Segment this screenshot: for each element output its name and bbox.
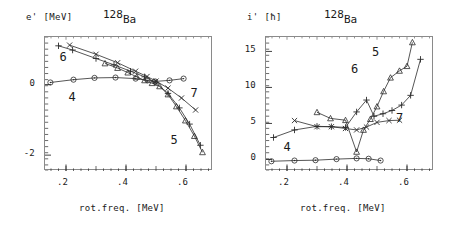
- curve-label-6: 6: [60, 50, 67, 64]
- y-tick-label: 15: [245, 44, 256, 54]
- x-axis-label-left: rot.freq. [MeV]: [79, 203, 165, 213]
- plot-title-left: 128Ba: [103, 8, 136, 26]
- x-tick-label: .2: [57, 177, 68, 187]
- nucleus-mass-number-left: 128: [103, 8, 123, 21]
- y-axis-label-right: i' [ħ]: [247, 12, 282, 22]
- y-tick-label: 5: [250, 116, 255, 126]
- curve-label-5: 5: [372, 45, 379, 59]
- nucleus-symbol-right: Ba: [344, 13, 357, 26]
- y-tick-label: 0: [250, 152, 255, 162]
- nucleus-symbol-left: Ba: [123, 13, 136, 26]
- x-axis-label-right: rot.freq. [MeV]: [300, 203, 386, 213]
- y-tick-label: 10: [245, 80, 256, 90]
- x-tick-label: .6: [177, 177, 188, 187]
- panel-left: e' [MeV] 128Ba .2.4.60-2 4567 rot.freq. …: [0, 0, 229, 240]
- plot-title-right: 128Ba: [324, 8, 357, 26]
- curve-label-6: 6: [351, 62, 358, 76]
- y-tick-label: 0: [29, 78, 34, 88]
- x-tick-label: .4: [338, 177, 349, 187]
- x-tick-label: .4: [117, 177, 128, 187]
- y-tick-label: -2: [24, 148, 35, 158]
- y-axis-label-left: e' [MeV]: [26, 12, 73, 22]
- curve-label-5: 5: [171, 133, 178, 147]
- x-tick-label: .6: [398, 177, 409, 187]
- curve-label-4: 4: [69, 90, 76, 104]
- curve-label-7: 7: [191, 86, 198, 100]
- x-tick-label: .2: [278, 177, 289, 187]
- panel-right: i' [ħ] 128Ba .2.4.6051015 4567 rot.freq.…: [229, 0, 458, 240]
- nucleus-mass-number-right: 128: [324, 8, 344, 21]
- curve-label-7: 7: [396, 111, 403, 125]
- plot-canvas-right: [266, 37, 434, 171]
- curve-label-4: 4: [284, 140, 291, 154]
